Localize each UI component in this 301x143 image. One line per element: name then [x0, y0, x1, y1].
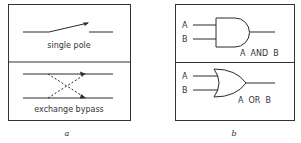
and-input-b-label: B: [182, 35, 188, 44]
single-pole-switch-icon: [23, 23, 113, 33]
panel-b-label: b: [231, 129, 236, 138]
exchange-bypass-icon: [23, 72, 113, 99]
and-caption: A AND B: [240, 49, 279, 58]
single-pole-caption: single pole: [47, 41, 90, 50]
or-input-b-label: B: [182, 86, 188, 95]
panel-a-label: a: [65, 129, 70, 138]
exchange-bypass-caption: exchange bypass: [34, 105, 104, 114]
or-gate-icon: [193, 69, 275, 97]
or-input-a-label: A: [182, 72, 188, 81]
and-gate-icon: [193, 18, 275, 47]
or-caption: A OR B: [238, 96, 271, 105]
and-input-a-label: A: [182, 21, 188, 30]
panel-b: A B A AND B A B A OR B b: [176, 5, 295, 139]
figure: single pole exchange bypass a A B A AND …: [0, 0, 301, 143]
panel-a: single pole exchange bypass a: [9, 5, 131, 139]
